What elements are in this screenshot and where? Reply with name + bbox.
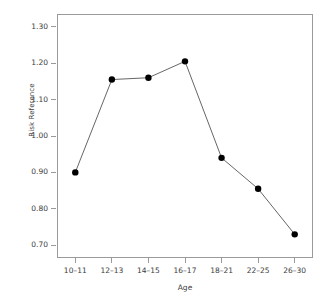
y-tick-mark [51, 136, 56, 137]
x-tick: 26–30 [270, 258, 320, 276]
y-tick-label: 1.20 [31, 58, 48, 68]
y-tick-label: 1.30 [31, 22, 48, 32]
chart-figure: Risk Reference 1.301.201.101.000.900.800… [0, 0, 330, 307]
y-tick-mark [51, 63, 56, 64]
y-tick-mark [51, 99, 56, 100]
y-tick: 0.90 [0, 167, 57, 177]
y-tick-mark [51, 208, 56, 209]
y-axis-label: Risk Reference [28, 65, 36, 155]
x-tick-mark [294, 258, 295, 263]
x-tick-mark [75, 258, 76, 263]
y-tick: 1.20 [0, 58, 57, 68]
y-tick: 0.70 [0, 240, 57, 250]
plot-area [57, 14, 313, 258]
y-tick-mark [51, 26, 56, 27]
y-tick-label: 0.90 [31, 167, 48, 177]
x-tick-mark [185, 258, 186, 263]
y-tick: 1.30 [0, 22, 57, 32]
y-tick: 1.10 [0, 95, 57, 105]
y-tick-label: 0.70 [31, 240, 48, 250]
x-tick-mark [111, 258, 112, 263]
x-tick-mark [258, 258, 259, 263]
y-tick: 0.80 [0, 204, 57, 214]
y-tick-label: 0.80 [31, 204, 48, 214]
x-tick-mark [148, 258, 149, 263]
y-tick-mark [51, 172, 56, 173]
y-tick-label: 1.10 [31, 95, 48, 105]
x-tick-label: 26–30 [270, 265, 320, 276]
y-tick-mark [51, 245, 56, 246]
x-tick-mark [221, 258, 222, 263]
y-tick: 1.00 [0, 131, 57, 141]
y-tick-label: 1.00 [31, 131, 48, 141]
x-axis-label: Age [57, 283, 313, 292]
